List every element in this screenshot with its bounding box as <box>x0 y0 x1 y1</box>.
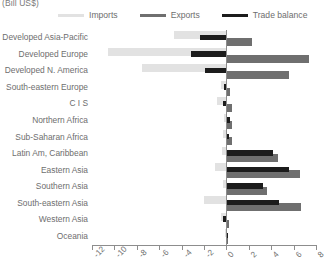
bar-trade-balance <box>191 51 227 57</box>
legend-imports-swatch-icon <box>58 14 84 17</box>
x-axis-tick <box>137 245 138 250</box>
bar-group <box>92 129 316 146</box>
legend-trade-balance-swatch-icon <box>222 14 248 17</box>
legend-exports-label: Exports <box>171 10 200 20</box>
bar-group <box>92 63 316 80</box>
category-label: South-eastern Europe <box>0 83 88 92</box>
category-label: Sub-Saharan Africa <box>0 133 88 142</box>
category-label: Developed Asia-Pacific <box>0 33 88 42</box>
category-label: Southern Asia <box>0 182 88 191</box>
legend-trade-balance-label: Trade balance <box>253 10 308 20</box>
bar-group <box>92 212 316 229</box>
zero-axis-line <box>226 30 227 245</box>
bar-group <box>92 146 316 163</box>
legend-exports-swatch-icon <box>140 14 166 17</box>
category-label: Northern Africa <box>0 116 88 125</box>
x-axis-tick <box>92 245 93 250</box>
x-axis-tick-label: 8 <box>316 250 326 260</box>
x-axis-tick-label: -8 <box>137 248 149 260</box>
bar-imports <box>215 163 226 171</box>
bar-group <box>92 162 316 179</box>
legend-trade-balance[interactable]: Trade balance <box>222 10 308 20</box>
bar-trade-balance <box>226 200 279 206</box>
x-axis-tick <box>271 245 272 250</box>
bar-trade-balance <box>200 35 227 41</box>
bar-group <box>92 47 316 64</box>
x-axis-tick-label: -12 <box>92 245 107 260</box>
x-axis-tick <box>294 245 295 250</box>
bar-trade-balance <box>226 183 263 189</box>
category-label: Eastern Asia <box>0 166 88 175</box>
bar-group <box>92 228 316 245</box>
x-axis-tick <box>204 245 205 250</box>
legend-imports-label: Imports <box>89 10 118 20</box>
bar-trade-balance <box>205 68 226 74</box>
x-axis-tick-label: 2 <box>249 250 259 260</box>
x-axis-tick <box>159 245 160 250</box>
bar-exports <box>226 71 289 79</box>
category-label: Developed N. America <box>0 66 88 75</box>
category-label: Latin Am, Caribbean <box>0 149 88 158</box>
x-axis-tick-label: 0 <box>226 250 236 260</box>
x-axis-tick <box>182 245 183 250</box>
category-label: Western Asia <box>0 215 88 224</box>
x-axis-tick <box>226 245 227 250</box>
bar-exports <box>226 38 252 46</box>
category-label: Developed Europe <box>0 50 88 59</box>
bar-trade-balance <box>226 167 289 173</box>
category-label: South-eastern Asia <box>0 199 88 208</box>
plot-area <box>92 30 316 245</box>
x-axis-tick-label: 6 <box>294 250 304 260</box>
category-label: Oceania <box>0 232 88 241</box>
bar-group <box>92 113 316 130</box>
bar-group <box>92 96 316 113</box>
x-axis-tick-label: -10 <box>114 245 129 260</box>
x-axis-tick-label: -2 <box>204 248 216 260</box>
bar-imports <box>204 196 226 204</box>
legend-imports[interactable]: Imports <box>58 10 118 20</box>
x-axis-tick-label: -4 <box>182 248 194 260</box>
x-axis-tick-label: -6 <box>159 248 171 260</box>
chart-legend: ImportsExportsTrade balance <box>58 8 320 22</box>
bar-trade-balance <box>226 150 273 156</box>
category-label: C I S <box>0 99 88 108</box>
bar-group <box>92 30 316 47</box>
category-axis-labels: Developed Asia-PacificDeveloped EuropeDe… <box>0 30 88 245</box>
bar-group <box>92 195 316 212</box>
bar-exports <box>226 55 309 63</box>
legend-exports[interactable]: Exports <box>140 10 200 20</box>
x-axis-tick-label: 4 <box>271 250 281 260</box>
x-axis-tick <box>249 245 250 250</box>
bar-group <box>92 179 316 196</box>
x-axis-tick <box>114 245 115 250</box>
unit-label: (Bill US$) <box>2 0 39 8</box>
bar-group <box>92 80 316 97</box>
x-axis: -12-10-8-6-4-202468 <box>92 245 316 276</box>
x-axis-tick <box>316 245 317 250</box>
